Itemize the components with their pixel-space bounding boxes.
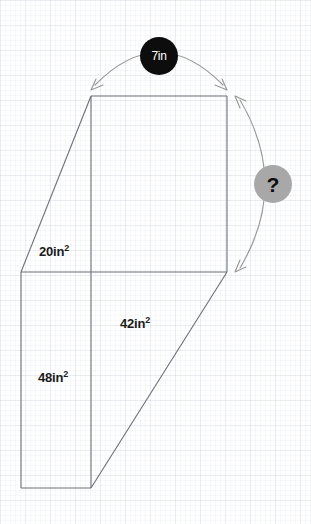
geometry-drawing [0, 0, 311, 524]
area-label-42-text: 42in [120, 316, 145, 331]
measurement-badge-7in-text: 7in [151, 49, 166, 63]
area-label-20: 20in2 [39, 244, 69, 259]
area-label-20-text: 20in [39, 244, 64, 259]
measurement-badge-unknown: ? [254, 165, 292, 203]
area-label-20-exponent: 2 [64, 243, 69, 253]
area-label-42: 42in2 [120, 316, 150, 331]
area-label-48-exponent: 2 [63, 369, 68, 379]
area-label-48: 48in2 [38, 370, 68, 385]
figure-canvas: 20in2 42in2 48in2 7in ? [0, 0, 311, 524]
area-label-48-text: 48in [38, 370, 63, 385]
edge-slant-right [91, 272, 227, 488]
measurement-badge-7in: 7in [140, 37, 178, 75]
area-label-42-exponent: 2 [145, 315, 150, 325]
measurement-badge-unknown-text: ? [267, 174, 280, 195]
